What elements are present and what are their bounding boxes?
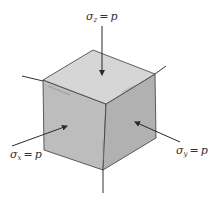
value-p: p (201, 144, 208, 157)
equals-sign: = (97, 10, 110, 23)
equals-sign: = (187, 144, 200, 157)
sigma-symbol: σ (176, 144, 184, 157)
sigma-y-label: σy=p (176, 145, 208, 158)
value-p: p (35, 148, 42, 161)
value-p: p (110, 10, 117, 23)
y-axis-line (155, 66, 166, 74)
sigma-symbol: σ (86, 10, 94, 23)
sigma-z-label: σz=p (86, 11, 117, 24)
x-axis-line (22, 76, 43, 81)
equals-sign: = (21, 148, 34, 161)
sigma-x-label: σx=p (10, 149, 42, 162)
stress-cube-diagram: σz=p σx=p σy=p (0, 0, 214, 204)
diagram-canvas (0, 0, 214, 204)
sigma-symbol: σ (10, 148, 18, 161)
